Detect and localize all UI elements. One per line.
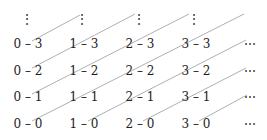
pair-label: 3 – 2 — [182, 65, 211, 77]
horizontal-ellipsis: ⋯ — [244, 38, 256, 50]
pair-label: 0 – 3 — [14, 38, 43, 50]
pair-label: 0 – 1 — [14, 91, 43, 103]
vertical-ellipsis: ⋮ — [133, 13, 145, 25]
pair-label: 3 – 3 — [182, 38, 211, 50]
vertical-ellipsis: ⋮ — [188, 13, 200, 25]
pair-label: 1 – 0 — [70, 118, 99, 130]
pair-label: 3 – 0 — [182, 118, 211, 130]
pair-label: 0 – 0 — [14, 118, 43, 130]
pair-label: 1 – 3 — [70, 38, 99, 50]
pair-label: 2 – 1 — [126, 91, 155, 103]
pair-label: 2 – 0 — [126, 118, 155, 130]
pair-label: 1 – 1 — [70, 91, 99, 103]
pair-label: 0 – 2 — [14, 65, 43, 77]
pair-label: 2 – 2 — [126, 65, 155, 77]
pair-label: 2 – 3 — [126, 38, 155, 50]
vertical-ellipsis: ⋮ — [76, 13, 88, 25]
vertical-ellipsis: ⋮ — [21, 13, 33, 25]
horizontal-ellipsis: ⋯ — [244, 91, 256, 103]
horizontal-ellipsis: ⋯ — [244, 65, 256, 77]
cantor-diagonal-diagram: ⋮ ⋮ ⋮ ⋮ 0 – 3 1 – 3 2 – 3 3 – 3 ⋯ 0 – 2 … — [0, 0, 267, 140]
pair-label: 1 – 2 — [70, 65, 99, 77]
pair-label: 3 – 1 — [182, 91, 211, 103]
horizontal-ellipsis: ⋯ — [244, 118, 256, 130]
